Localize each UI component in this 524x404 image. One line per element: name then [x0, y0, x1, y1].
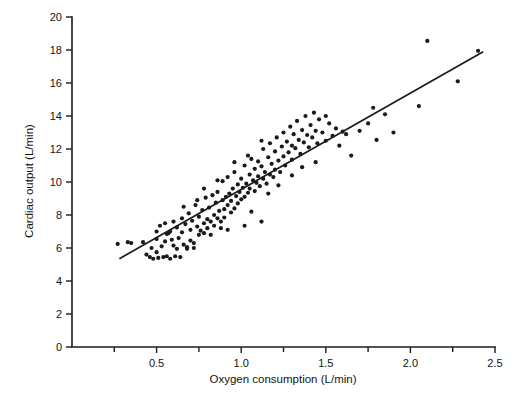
- y-tick-label: 2: [56, 308, 62, 320]
- y-tick-label: 18: [50, 44, 62, 56]
- data-point: [280, 144, 284, 148]
- data-point: [229, 210, 233, 214]
- data-point: [297, 138, 301, 142]
- data-point: [383, 112, 387, 116]
- tick-labels-group: 024681012141618200.51.01.52.02.5: [50, 11, 503, 369]
- data-point: [155, 250, 159, 254]
- data-point: [173, 254, 177, 258]
- data-point: [156, 256, 160, 260]
- data-point: [302, 140, 306, 144]
- data-point: [229, 199, 233, 203]
- data-point: [253, 167, 257, 171]
- data-point: [129, 241, 133, 245]
- data-point: [197, 233, 201, 237]
- data-point: [144, 253, 148, 257]
- data-point: [188, 228, 192, 232]
- data-point: [242, 224, 246, 228]
- data-point: [236, 201, 240, 205]
- data-point: [259, 220, 263, 224]
- data-point: [324, 114, 328, 118]
- data-point: [180, 230, 184, 234]
- data-point: [202, 187, 206, 191]
- data-point: [248, 172, 252, 176]
- y-tick-label: 20: [50, 11, 62, 23]
- data-point: [193, 203, 197, 207]
- chart-canvas: 024681012141618200.51.01.52.02.5 Oxygen …: [0, 0, 524, 404]
- data-point: [219, 220, 223, 224]
- data-point: [195, 198, 199, 202]
- data-point: [246, 191, 250, 195]
- data-point: [188, 238, 192, 242]
- data-point: [231, 187, 235, 191]
- data-point: [276, 158, 280, 162]
- data-point: [259, 139, 263, 143]
- data-point: [220, 179, 224, 183]
- data-point: [185, 247, 189, 251]
- x-axis-title: Oxygen consumption (L/min): [209, 373, 356, 385]
- data-point: [276, 183, 280, 187]
- data-point: [163, 221, 167, 225]
- data-point: [391, 130, 395, 134]
- y-tick-label: 6: [56, 242, 62, 254]
- data-point: [165, 254, 169, 258]
- data-point: [417, 104, 421, 108]
- data-point: [187, 211, 191, 215]
- data-point: [149, 246, 153, 250]
- data-point: [239, 197, 243, 201]
- data-point: [226, 175, 230, 179]
- data-point: [242, 195, 246, 199]
- axes-group: [72, 17, 495, 347]
- y-tick-label: 12: [50, 143, 62, 155]
- data-point: [180, 216, 184, 220]
- y-tick-label: 10: [50, 176, 62, 188]
- data-point: [192, 241, 196, 245]
- data-point: [215, 216, 219, 220]
- data-point: [256, 174, 260, 178]
- data-point: [278, 170, 282, 174]
- data-point: [222, 215, 226, 219]
- data-point: [425, 39, 429, 43]
- data-point: [249, 210, 253, 214]
- data-point: [205, 217, 209, 221]
- x-tick-label: 1.5: [318, 357, 333, 369]
- data-point: [288, 125, 292, 129]
- data-point: [155, 229, 159, 233]
- x-tick-label: 0.5: [149, 357, 164, 369]
- data-point: [170, 238, 174, 242]
- data-point: [371, 106, 375, 110]
- data-point: [182, 243, 186, 247]
- data-point: [182, 205, 186, 209]
- data-point: [303, 114, 307, 118]
- data-point: [178, 255, 182, 259]
- data-point: [281, 130, 285, 134]
- data-point: [209, 233, 213, 237]
- data-point: [320, 130, 324, 134]
- x-tick-label: 2.0: [403, 357, 418, 369]
- data-point: [256, 159, 260, 163]
- data-point: [281, 154, 285, 158]
- data-point: [210, 193, 214, 197]
- data-point: [366, 121, 370, 125]
- y-tick-label: 8: [56, 209, 62, 221]
- data-point: [198, 229, 202, 233]
- data-point: [263, 170, 267, 174]
- regression-line: [119, 52, 483, 259]
- data-point: [317, 117, 321, 121]
- data-point: [202, 221, 206, 225]
- data-point: [232, 170, 236, 174]
- data-point: [177, 236, 181, 240]
- data-point: [290, 144, 294, 148]
- y-tick-label: 0: [56, 341, 62, 353]
- axis-spine: [72, 17, 495, 347]
- data-point: [327, 121, 331, 125]
- scatter-plot-figure: 024681012141618200.51.01.52.02.5 Oxygen …: [0, 0, 524, 404]
- data-point: [160, 244, 164, 248]
- data-point: [190, 219, 194, 223]
- data-point: [158, 224, 162, 228]
- data-point: [232, 160, 236, 164]
- data-point: [275, 135, 279, 139]
- x-tick-label: 2.5: [487, 357, 502, 369]
- regression-line-group: [119, 52, 483, 259]
- data-point: [175, 247, 179, 251]
- data-point: [312, 111, 316, 115]
